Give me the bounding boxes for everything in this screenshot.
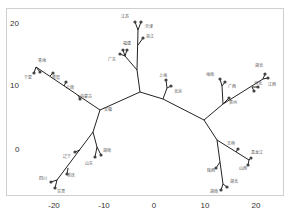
leaf-label: 内蒙古: [80, 93, 92, 99]
x-tick: 10: [201, 201, 210, 210]
leaf-label: 辽宁: [63, 153, 71, 159]
x-tick: 20: [252, 201, 261, 210]
leaf-label: 湖南: [103, 147, 111, 153]
x-tick: -20: [48, 201, 60, 210]
leaf-label: 山东: [85, 160, 93, 166]
leaf-label: 广东: [108, 56, 116, 62]
leaf-label: 天津: [145, 23, 153, 29]
tree-edges: [34, 22, 268, 190]
leaf-label: 吉林: [227, 140, 235, 146]
leaf-label: 陕西: [207, 167, 215, 173]
leaf-label: 安徽: [104, 106, 112, 112]
leaf-label: 贵州: [229, 99, 237, 105]
y-tick: 10: [10, 81, 19, 90]
leaf-label: 福建: [123, 40, 131, 46]
leaf-label: 云南: [66, 84, 74, 90]
x-tick: 0: [152, 201, 157, 210]
leaf-label: 黑龙江: [251, 149, 263, 155]
leaf-label: 海南: [206, 71, 214, 77]
leaf-label: 湖北: [255, 62, 263, 68]
leaf-label: 山西: [239, 165, 247, 171]
leaf-label: 广西: [228, 83, 236, 89]
leaf-label: 江西: [268, 81, 276, 87]
leaf-labels: 江苏 天津 浙江 福建 广东 青海 宁夏 新疆 云南 内蒙古 安徽 上海 北京 …: [24, 13, 276, 194]
leaf-label: 宁夏: [24, 74, 32, 80]
leaf-label: 湖北: [230, 178, 238, 184]
tree-diagram: -20 -10 0 10 20 20 10 0: [0, 0, 290, 215]
x-axis-ticks: -20 -10 0 10 20: [48, 201, 261, 210]
leaf-label: 湖南: [210, 188, 218, 194]
y-axis-ticks: 20 10 0: [10, 19, 20, 154]
leaf-label: 浙江: [146, 33, 154, 39]
leaf-label: 重庆: [67, 172, 75, 178]
leaf-label: 北京: [174, 88, 182, 94]
y-tick: 0: [15, 145, 20, 154]
leaf-label: 上海: [159, 72, 167, 78]
leaf-label: 新疆: [52, 74, 60, 80]
x-tick: -10: [98, 201, 110, 210]
leaf-label: 河北: [254, 80, 262, 86]
leaf-label: 四川: [39, 176, 47, 181]
leaf-label: 江苏: [121, 13, 129, 19]
leaf-label: 甘肃: [57, 188, 65, 194]
leaf-label: 青海: [38, 57, 46, 63]
y-tick: 20: [10, 19, 19, 28]
